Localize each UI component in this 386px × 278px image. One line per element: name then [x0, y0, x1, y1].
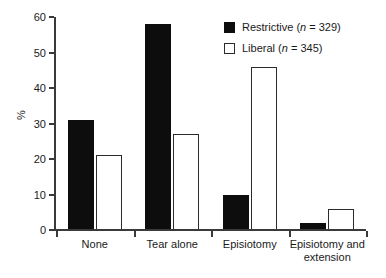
y-axis-tick-label: 60 [34, 9, 46, 25]
caption-remnant [0, 271, 386, 278]
bar-group [56, 17, 134, 230]
bar-liberal-episiotomy-and-extension[interactable] [328, 209, 354, 230]
x-axis-label-episiotomy-and-extension: Episiotomy andextension [281, 238, 375, 264]
y-axis: 0102030405060 [28, 14, 54, 234]
legend-item-label: Restrictive (n = 329) [242, 21, 341, 34]
bar-liberal-none[interactable] [96, 155, 122, 230]
y-axis-tick-label: 10 [34, 187, 46, 203]
x-axis-tick-mark [56, 231, 58, 237]
x-axis-label-line: Tear alone [147, 238, 198, 250]
bar-restrictive-episiotomy[interactable] [223, 195, 249, 231]
x-axis-tick-mark [366, 231, 368, 237]
y-axis-tick-label: 40 [34, 80, 46, 96]
bar-liberal-episiotomy[interactable] [251, 67, 277, 230]
x-axis-tick-mark [289, 231, 291, 237]
bar-liberal-tear-alone[interactable] [173, 134, 199, 230]
legend-item-restrictive[interactable]: Restrictive (n = 329) [224, 18, 382, 36]
bar-group [134, 17, 212, 230]
y-axis-tick-label: 50 [34, 45, 46, 61]
bar-restrictive-tear-alone[interactable] [145, 24, 171, 230]
y-axis-tick-label: 30 [34, 116, 46, 132]
x-axis-line [54, 229, 366, 231]
x-axis-tick-mark [211, 231, 213, 237]
bar-chart-figure: % 0102030405060 Restrictive (n = 329)Lib… [0, 0, 386, 278]
x-axis-label-line: Episiotomy and [290, 238, 365, 250]
outlined-square-icon [224, 43, 235, 54]
bar-restrictive-none[interactable] [68, 120, 94, 230]
y-axis-tick-label: 20 [34, 151, 46, 167]
chart-legend: Restrictive (n = 329)Liberal (n = 345) [224, 18, 382, 60]
x-axis-tick-mark [134, 231, 136, 237]
x-axis-label-line: extension [281, 251, 375, 264]
filled-square-icon [224, 22, 235, 33]
legend-item-label: Liberal (n = 345) [242, 42, 322, 55]
legend-item-liberal[interactable]: Liberal (n = 345) [224, 39, 382, 57]
y-axis-tick-label: 0 [40, 222, 46, 238]
x-axis-label-line: None [82, 238, 108, 250]
x-axis-label-line: Episiotomy [223, 238, 277, 250]
